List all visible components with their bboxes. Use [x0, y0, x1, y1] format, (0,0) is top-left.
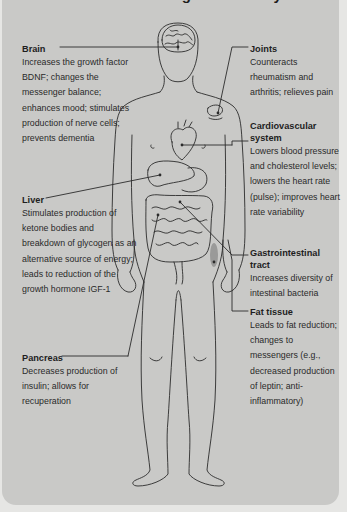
callout-liver-label: Liver [22, 194, 137, 206]
callout-gastrointestinal-label: Gastrointestinal tract [250, 247, 342, 271]
callout-brain-label: Brain [22, 43, 137, 55]
head-outline [158, 23, 198, 92]
callout-fat-tissue-label: Fat tissue [250, 306, 340, 318]
legs-outline [133, 282, 224, 486]
callout-cardiovascular-label: Cardiovascular system [250, 120, 340, 144]
callout-fat-tissue: Fat tissue Leads to fat reduction; chang… [250, 306, 340, 409]
callout-joints-label: Joints [250, 43, 340, 55]
callout-pancreas-label: Pancreas [22, 352, 132, 364]
callout-brain: Brain Increases the growth factor BDNF; … [22, 43, 137, 146]
callout-brain-text: Increases the growth factor BDNF; change… [22, 55, 137, 146]
callout-cardiovascular-text: Lowers blood pressure and cholesterol le… [250, 144, 340, 220]
callout-joints: Joints Counteracts rheumatism and arthri… [250, 43, 340, 101]
callout-cardiovascular: Cardiovascular system Lowers blood press… [250, 120, 340, 220]
callout-liver: Liver Stimulates production of ketone bo… [22, 194, 137, 297]
callout-fat-tissue-text: Leads to fat reduction; changes to messe… [250, 318, 340, 409]
heart-icon [171, 120, 196, 160]
intestines-icon [146, 195, 213, 284]
callout-pancreas-text: Decreases production of insulin; allows … [22, 364, 132, 410]
joint-icon [207, 105, 222, 120]
callout-joints-text: Counteracts rheumatism and arthritis; re… [250, 55, 340, 101]
callout-pancreas: Pancreas Decreases production of insulin… [22, 352, 132, 410]
liver-icon [148, 161, 195, 186]
callout-gastrointestinal: Gastrointestinal tract Increases diversi… [250, 247, 342, 301]
callout-gastrointestinal-text: Increases diversity of intestinal bacter… [250, 271, 342, 301]
callout-liver-text: Stimulates production of ketone bodies a… [22, 206, 137, 297]
